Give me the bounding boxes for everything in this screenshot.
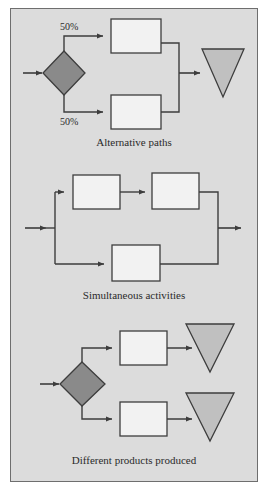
panel-caption-alternative-paths: Alternative paths (96, 136, 171, 148)
line-top-right-to-merge (199, 192, 218, 228)
activity-box-bottom (112, 245, 160, 281)
branch-label-bottom-percent: 50% (60, 116, 78, 127)
panel-alternative-paths: 50% 50% Alternative paths (23, 19, 244, 148)
arrow-decision-to-top-box-3 (82, 348, 112, 362)
output-triangle (202, 49, 244, 97)
activity-box-top-right (152, 173, 199, 209)
decision-diamond-3 (60, 362, 105, 406)
line-bottom-to-merge (160, 228, 218, 264)
arrow-decision-to-bottom-box (64, 95, 103, 112)
activity-box-top (111, 19, 161, 53)
output-triangle-top (186, 324, 234, 372)
arrow-decision-to-top-box (64, 36, 103, 51)
panel-different-products: Different products produced (40, 324, 234, 466)
output-triangle-bottom (186, 393, 234, 441)
flowchart-diagram: 50% 50% Alternative paths (0, 0, 269, 494)
activity-box-bottom (111, 95, 161, 129)
branch-label-top-percent: 50% (60, 21, 78, 32)
figure-root: 50% 50% Alternative paths (0, 0, 269, 494)
panel-caption-simultaneous-activities: Simultaneous activities (83, 289, 185, 301)
arrow-decision-to-bottom-box-3 (82, 406, 112, 419)
activity-box-top-3 (120, 331, 167, 365)
activity-box-bottom-3 (120, 402, 167, 436)
line-top-box-to-merge (161, 43, 179, 73)
panel-simultaneous-activities: Simultaneous activities (25, 173, 241, 301)
line-bottom-box-to-merge (161, 73, 179, 112)
activity-box-top-left (73, 175, 120, 209)
decision-diamond (43, 51, 85, 95)
panel-caption-different-products: Different products produced (72, 454, 197, 466)
